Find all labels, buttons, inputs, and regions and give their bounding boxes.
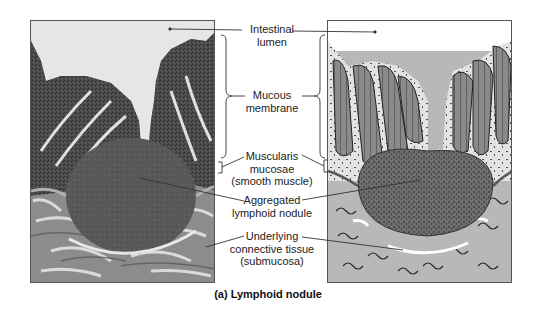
label-aggregated-lymphoid-nodule: Aggregated lymphoid nodule [224,194,320,219]
label-mucous-membrane: Mucous membrane [236,89,308,114]
label-intestinal-lumen: Intestinal lumen [236,23,308,48]
figure-caption: (a) Lymphoid nodule [0,288,536,300]
label-underlying-connective-tissue: Underlying connective tissue (submucosa) [216,230,328,268]
label-muscularis-mucosae: Muscularis mucosae (smooth muscle) [224,150,320,188]
